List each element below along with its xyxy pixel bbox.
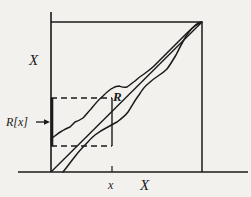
image-of-x-label: R[x] <box>5 115 28 129</box>
x-tick-label: x <box>107 178 114 192</box>
figure-canvas: X X x R R[x] <box>0 0 251 197</box>
relation-label: R <box>112 89 122 104</box>
image-pointer-arrow <box>36 119 50 125</box>
image-guides-group <box>51 98 112 146</box>
y-axis-label: X <box>28 52 39 68</box>
diagonal-line <box>51 22 202 172</box>
arrow-head <box>44 119 50 125</box>
relation-lower-boundary-curve <box>63 22 202 172</box>
axes-group <box>18 12 248 172</box>
relation-diagram-figure: X X x R R[x] <box>0 0 251 197</box>
x-axis-label: X <box>139 177 150 193</box>
relation-upper-boundary-curve <box>51 22 202 139</box>
